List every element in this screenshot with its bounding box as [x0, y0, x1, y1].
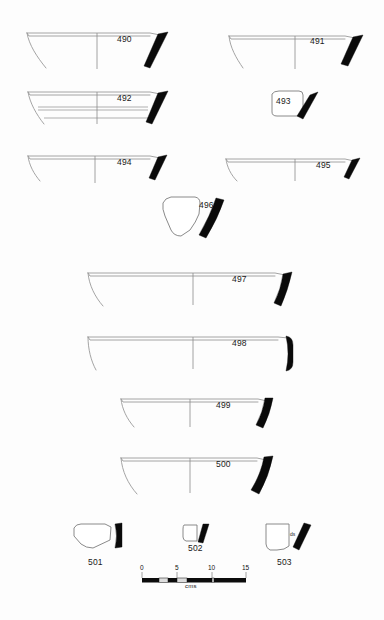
figure-label-498: 498 [232, 338, 247, 348]
figure-494 [28, 155, 167, 183]
figure-label-503: 503 [277, 557, 292, 567]
figure-502 [183, 524, 209, 543]
scale-unit-label: cms [185, 583, 197, 589]
figure-label-494: 494 [117, 157, 132, 167]
figure-label-497: 497 [232, 274, 247, 284]
figure-492 [28, 91, 168, 124]
figure-490 [27, 32, 168, 69]
scale-tick-5: 5 [175, 564, 179, 571]
figure-498 [88, 336, 293, 371]
figure-495 [226, 158, 360, 181]
figure-label-492: 492 [117, 93, 132, 103]
figure-label-501: 501 [88, 557, 103, 567]
figure-label-495: 495 [316, 160, 331, 170]
figure-491 [229, 35, 363, 69]
figure-label-490: 490 [117, 34, 132, 44]
scale-tick-10: 10 [208, 564, 215, 571]
sherd-annotation-503: ds [290, 531, 295, 537]
pottery-profile-drawing [0, 0, 384, 620]
figure-497 [88, 272, 292, 306]
scale-tick-15: 15 [242, 564, 249, 571]
figure-499 [121, 398, 273, 428]
figure-label-493: 493 [276, 96, 291, 106]
scale-bar [142, 572, 246, 583]
figure-label-500: 500 [216, 459, 231, 469]
pottery-plate: 490 491 492 493 494 495 496 497 498 499 … [0, 0, 384, 620]
figure-501 [74, 523, 122, 548]
figure-503 [266, 523, 311, 550]
figure-label-502: 502 [188, 543, 203, 553]
figure-label-496: 496 [199, 200, 214, 210]
scale-tick-0: 0 [140, 564, 144, 571]
figure-496 [163, 197, 224, 238]
figure-label-499: 499 [216, 400, 231, 410]
figure-label-491: 491 [310, 36, 325, 46]
figure-500 [121, 456, 273, 494]
